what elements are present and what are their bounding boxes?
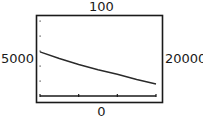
x-axis — [40, 94, 156, 97]
y-tick-dot — [40, 21, 41, 22]
y-tick-dot — [40, 66, 41, 67]
y-tick-dot — [40, 81, 41, 82]
y-axis-ticks — [40, 21, 41, 82]
graph-frame — [37, 16, 163, 103]
y-tick-dot — [40, 36, 41, 37]
graph-screen — [0, 0, 203, 121]
data-curve — [40, 52, 156, 84]
